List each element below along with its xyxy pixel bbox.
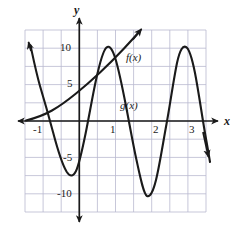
x-tick-1: 1	[110, 124, 116, 135]
y-tick-neg10: -10	[57, 188, 72, 199]
x-tick-neg1: -1	[33, 124, 42, 135]
x-axis-label: x	[224, 115, 230, 127]
graph-figure: y x 10 5 -5 -10 -1 1 2 3 f(x) g(x)	[0, 0, 241, 239]
y-axis-label: y	[74, 4, 79, 16]
y-tick-neg5: -5	[63, 152, 72, 163]
x-tick-2: 2	[153, 124, 159, 135]
curve-label-f: f(x)	[126, 52, 141, 63]
curve-g-arrow-start	[29, 42, 32, 51]
x-tick-3: 3	[189, 124, 195, 135]
y-tick-10: 10	[60, 42, 71, 53]
curve-label-g: g(x)	[120, 100, 138, 111]
y-tick-5: 5	[67, 78, 73, 89]
graph-canvas	[0, 0, 241, 239]
curve-f-arrow-end	[133, 29, 142, 40]
